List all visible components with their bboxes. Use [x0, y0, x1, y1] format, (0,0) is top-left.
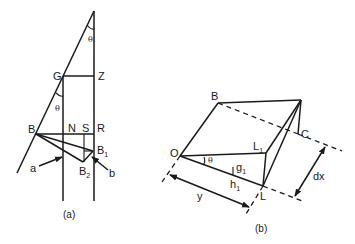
- label-g1: g1: [236, 161, 246, 175]
- label-h1: h1: [230, 178, 240, 192]
- label-l1: L1: [253, 140, 263, 154]
- diagram-canvas: G Z B N S R B1 B2 a b θ θ (a): [0, 0, 355, 244]
- label-r: R: [97, 122, 105, 134]
- edge-o-l: [180, 156, 263, 186]
- caption-b: (b): [255, 223, 267, 234]
- edge-o-b: [180, 103, 218, 156]
- arrow-a: [39, 157, 62, 166]
- label-theta-b: θ: [208, 156, 213, 165]
- edge-l1-top: [266, 100, 301, 153]
- label-n: N: [68, 122, 76, 134]
- figure-a: G Z B N S R B1 B2 a b θ θ (a): [17, 11, 115, 220]
- label-g: G: [53, 70, 62, 82]
- label-o: O: [170, 147, 179, 159]
- dashed-l-ext: [263, 186, 305, 202]
- theta-arc-top: [87, 25, 94, 29]
- label-c: C: [301, 128, 309, 140]
- label-theta-top: θ: [88, 35, 93, 44]
- label-l: L: [260, 190, 266, 202]
- inclined-line: [17, 11, 94, 173]
- label-b-arrow: b: [109, 167, 115, 179]
- label-a: a: [30, 162, 37, 174]
- edge-b-top: [218, 100, 301, 103]
- label-s: S: [82, 122, 89, 134]
- theta-arc-mid: [56, 93, 63, 96]
- caption-a: (a): [63, 209, 75, 220]
- edge-o-l1: [180, 153, 266, 156]
- label-b1: B1: [97, 144, 108, 158]
- label-b2: B2: [79, 165, 90, 179]
- label-z: Z: [98, 70, 105, 82]
- label-y: y: [197, 190, 203, 202]
- label-theta-mid: θ: [55, 104, 60, 113]
- figure-b: B C O L1 L g1 h1 θ y dx (b): [162, 90, 342, 234]
- dashed-b-c: [218, 103, 298, 134]
- edge-l-top: [263, 100, 301, 186]
- label-b: B: [28, 123, 35, 135]
- label-dx: dx: [313, 170, 325, 182]
- label-b-top: B: [211, 90, 218, 102]
